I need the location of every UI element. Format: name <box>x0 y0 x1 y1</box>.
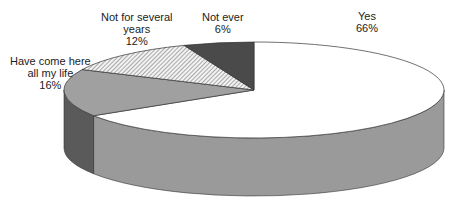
label-not-ever-text: Not ever <box>202 11 244 23</box>
label-yes-value: 66% <box>356 22 378 34</box>
label-have-come-text2: all my life <box>10 67 91 79</box>
label-not-several-text1: Not for several <box>101 11 173 23</box>
pie-top-slices <box>64 42 444 138</box>
label-yes: Yes 66% <box>356 10 378 34</box>
label-not-several-text2: years <box>101 23 173 35</box>
label-have-come-here: Have come here all my life 16% <box>10 55 91 91</box>
label-not-ever: Not ever 6% <box>202 11 244 35</box>
label-not-several-value: 12% <box>101 35 173 47</box>
label-have-come-value: 16% <box>10 79 91 91</box>
label-yes-text: Yes <box>356 10 378 22</box>
label-have-come-text1: Have come here <box>10 55 91 67</box>
label-not-for-several-years: Not for several years 12% <box>101 11 173 47</box>
label-not-ever-value: 6% <box>202 23 244 35</box>
